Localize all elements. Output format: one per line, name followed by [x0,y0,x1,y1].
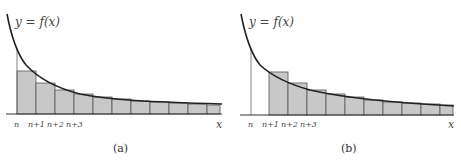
tick-n1-b: n+1 [262,120,279,129]
curve-label-b: y = f(x) [248,15,294,29]
panel-a: y = f(x) x n n+1 n+2 n+3 (a) [6,14,223,155]
caption-b: (b) [341,142,357,155]
x-axis-label-b: x [448,118,455,131]
tick-n2-b: n+2 [281,120,298,129]
x-axis-label-a: x [216,118,223,131]
caption-a: (a) [113,142,128,155]
rectangles-b [269,72,453,115]
tick-n-a: n [14,120,19,129]
tick-n3-a: n+3 [66,120,83,129]
tick-n1-a: n+1 [28,120,45,129]
tick-n2-a: n+2 [47,120,64,129]
curve-label-a: y = f(x) [14,15,60,29]
tick-n3-b: n+3 [300,120,317,129]
tick-n-b: n [248,120,253,129]
riemann-sum-figure: y = f(x) x n n+1 n+2 n+3 (a) y = f(x) x … [0,0,461,162]
panel-b: y = f(x) x n n+1 n+2 n+3 (b) [240,14,455,155]
rectangles-a [17,71,220,114]
